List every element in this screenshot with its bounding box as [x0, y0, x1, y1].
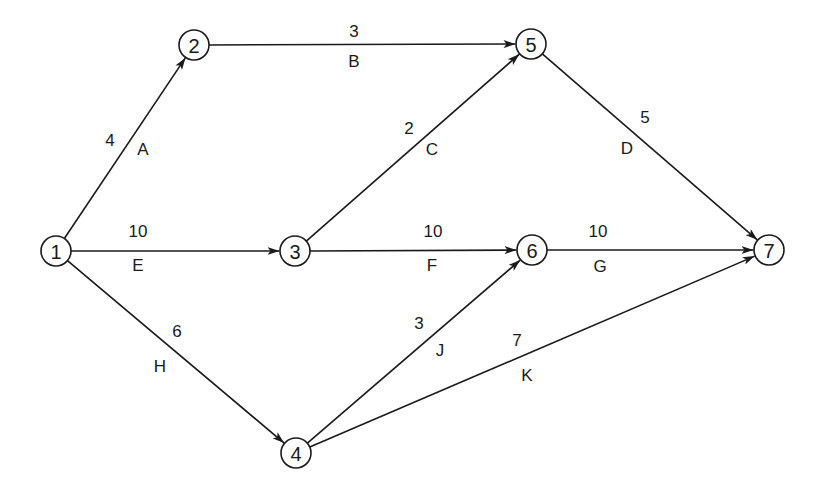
- edge-activity-A: A: [137, 140, 149, 159]
- node-1: 1: [41, 236, 71, 266]
- edge-duration-J: 3: [414, 314, 423, 333]
- edge-duration-H: 6: [172, 322, 181, 341]
- edge-activity-C: C: [426, 140, 438, 159]
- edge-duration-C: 2: [404, 119, 413, 138]
- edge-duration-G: 10: [589, 222, 608, 241]
- node-5: 5: [516, 29, 546, 59]
- node-label: 3: [289, 241, 300, 263]
- edge-4-6-arrow: [307, 260, 520, 443]
- node-7: 7: [754, 235, 784, 265]
- edge-activity-K: K: [521, 366, 533, 385]
- edge-activity-J: J: [436, 341, 445, 360]
- edge-duration-D: 5: [640, 108, 649, 127]
- edge-3-5-arrow: [306, 54, 519, 241]
- edge-duration-A: 4: [105, 131, 114, 150]
- node-label: 4: [290, 443, 301, 465]
- edge-duration-F: 10: [424, 222, 443, 241]
- edge-activity-E: E: [132, 256, 143, 275]
- node-label: 1: [50, 241, 61, 263]
- node-3: 3: [280, 236, 310, 266]
- edge-activity-H: H: [154, 357, 166, 376]
- edge-1-4-arrow: [67, 261, 284, 443]
- edge-5-7-arrow: [542, 54, 757, 240]
- edge-1-2-arrow: [64, 58, 185, 239]
- edge-3-6-arrow: [310, 250, 517, 251]
- edge-2-5-arrow: [209, 44, 516, 45]
- edges-layer: [64, 44, 757, 447]
- node-label: 6: [526, 240, 537, 262]
- edge-duration-E: 10: [129, 222, 148, 241]
- node-2: 2: [179, 30, 209, 60]
- edge-activity-G: G: [593, 257, 606, 276]
- edge-duration-K: 7: [512, 331, 521, 350]
- edge-activity-B: B: [348, 52, 359, 71]
- node-label: 5: [525, 34, 536, 56]
- edge-activity-D: D: [621, 139, 633, 158]
- edge-4-7-arrow: [310, 256, 755, 447]
- node-label: 7: [763, 240, 774, 262]
- node-label: 2: [188, 35, 199, 57]
- network-diagram: 4A3B2C5D10E10F10G6H3J7K 1234567: [0, 0, 821, 489]
- node-6: 6: [517, 235, 547, 265]
- edge-duration-B: 3: [349, 22, 358, 41]
- node-4: 4: [281, 438, 311, 468]
- edge-activity-F: F: [427, 256, 437, 275]
